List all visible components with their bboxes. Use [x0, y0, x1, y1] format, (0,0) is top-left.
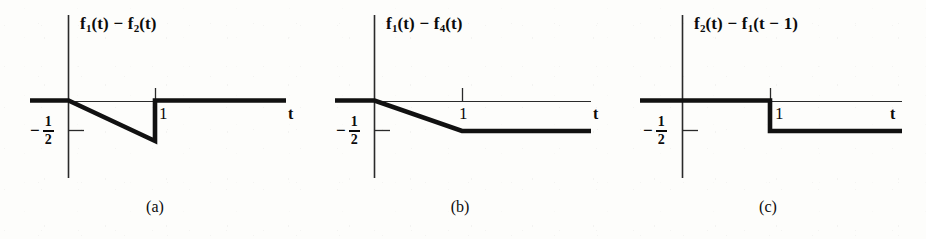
fraction-denominator-c: 2: [657, 133, 666, 147]
fraction-denominator-a: 2: [44, 133, 53, 147]
panel-caption-b: (b): [415, 198, 505, 216]
title-arg-right-c: (t − 1): [753, 14, 798, 33]
title-operator-c: −: [727, 14, 737, 33]
fraction-numerator-a: 1: [44, 115, 53, 129]
plot-panel-b: f1(t) − f4(t) 1 t − 1 2 (b): [310, 0, 615, 239]
figure-root: f1(t) − f2(t) 1 t − 1 2 (a) f1(t) −: [0, 0, 926, 239]
title-arg-left-b: (t): [397, 14, 415, 33]
plot-title-b: f1(t) − f4(t): [386, 14, 463, 34]
x-tick-label-a: 1: [159, 104, 168, 124]
title-arg-left-c: (t): [705, 14, 723, 33]
plot-title-c: f2(t) − f1(t − 1): [694, 14, 798, 34]
y-tick-label-c: − 1 2: [643, 115, 667, 147]
neg-sign-a: −: [30, 122, 40, 139]
y-tick-label-a: − 1 2: [30, 115, 54, 147]
x-tick-label-b: 1: [459, 104, 468, 124]
panel-caption-c: (c): [723, 198, 813, 216]
fraction-half-b: 1 2: [349, 115, 360, 147]
title-arg-right-b: (t): [445, 14, 463, 33]
plot-title-a: f1(t) − f2(t): [80, 14, 157, 34]
fraction-half-a: 1 2: [43, 115, 54, 147]
fraction-numerator-c: 1: [657, 115, 666, 129]
x-axis-label-b: t: [593, 105, 598, 123]
neg-sign-c: −: [643, 122, 653, 139]
x-axis-label-a: t: [288, 105, 293, 123]
fraction-numerator-b: 1: [350, 115, 359, 129]
title-operator-b: −: [419, 14, 429, 33]
fraction-half-c: 1 2: [656, 115, 667, 147]
plot-panel-c: f2(t) − f1(t − 1) 1 t − 1 2 (c): [615, 0, 926, 239]
title-arg-left-a: (t): [91, 14, 109, 33]
title-arg-right-a: (t): [139, 14, 157, 33]
plot-panel-a: f1(t) − f2(t) 1 t − 1 2 (a): [0, 0, 310, 239]
neg-sign-b: −: [336, 122, 346, 139]
title-operator-a: −: [113, 14, 123, 33]
panel-caption-a: (a): [110, 198, 200, 216]
x-tick-label-c: 1: [775, 104, 784, 124]
fraction-denominator-b: 2: [350, 133, 359, 147]
y-tick-label-b: − 1 2: [336, 115, 360, 147]
x-axis-label-c: t: [890, 105, 895, 123]
signal-trace-c: [640, 101, 902, 132]
